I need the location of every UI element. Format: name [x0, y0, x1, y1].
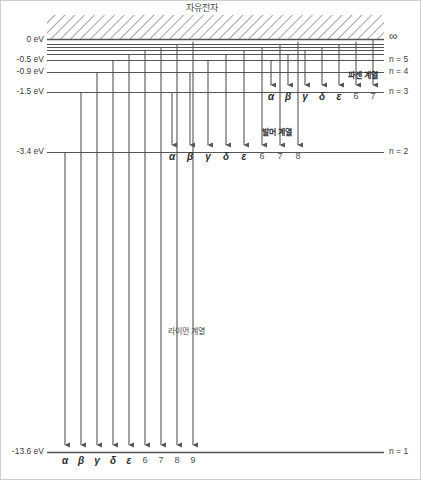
transition-label-lyman-alpha: α: [57, 456, 73, 466]
series-label-balmer: 발머 계열: [262, 129, 292, 137]
transition-label-lyman-epsilon: ε: [121, 456, 137, 466]
series-label-lyman: 라이먼 계열: [168, 328, 205, 336]
level-label-n4: n = 4: [389, 67, 408, 76]
energy-label-n3: -1.5 eV: [0, 87, 44, 96]
transition-label-balmer-beta: β: [182, 152, 198, 162]
transition-label-paschen-epsilon: ε: [331, 92, 347, 102]
transition-label-balmer-6: 6: [254, 152, 270, 161]
transition-label-lyman-9: 9: [185, 456, 201, 465]
continuum-hatch-region: [47, 15, 384, 39]
energy-label-n5: -0.5 eV: [0, 55, 44, 64]
transition-label-lyman-6: 6: [137, 456, 153, 465]
transition-label-lyman-gamma: γ: [89, 456, 105, 466]
energy-label-n1: -13.6 eV: [0, 447, 44, 456]
transition-label-lyman-8: 8: [169, 456, 185, 465]
transition-label-paschen-delta: δ: [314, 92, 330, 102]
transition-label-paschen-7: 7: [365, 92, 381, 101]
transition-label-paschen-gamma: γ: [297, 92, 313, 102]
level-label-infinity: ∞: [389, 30, 398, 42]
level-label-n1: n = 1: [389, 447, 408, 456]
transition-label-paschen-beta: β: [280, 92, 296, 102]
transition-label-lyman-delta: δ: [105, 456, 121, 466]
transition-label-balmer-7: 7: [272, 152, 288, 161]
lyman-transition-arrows: [65, 42, 193, 446]
energy-label-0ev: 0 eV: [0, 35, 44, 44]
transition-label-paschen-alpha: α: [263, 92, 279, 102]
level-label-n5: n = 5: [389, 55, 408, 64]
level-label-n2: n = 2: [389, 147, 408, 156]
free-electron-title: 자유전자: [186, 4, 218, 13]
transition-label-balmer-8: 8: [290, 152, 306, 161]
level-label-n3: n = 3: [389, 87, 408, 96]
transition-label-balmer-delta: δ: [218, 152, 234, 162]
series-label-paschen: 파센 계열: [348, 72, 378, 80]
transition-label-balmer-epsilon: ε: [236, 152, 252, 162]
transition-label-lyman-7: 7: [153, 456, 169, 465]
energy-level-diagram: 자유전자 0 eV -0.5 eV -0.9 eV -1.5 eV -3.4 e…: [0, 0, 421, 480]
transition-label-lyman-beta: β: [73, 456, 89, 466]
transition-label-balmer-alpha: α: [164, 152, 180, 162]
energy-label-n4: -0.9 eV: [0, 67, 44, 76]
transition-label-balmer-gamma: γ: [200, 152, 216, 162]
energy-label-n2: -3.4 eV: [0, 147, 44, 156]
transition-label-paschen-6: 6: [348, 92, 364, 101]
